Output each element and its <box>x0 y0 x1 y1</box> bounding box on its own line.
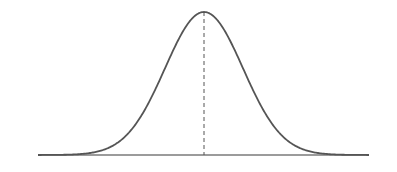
bell-curve-diagram <box>0 0 397 172</box>
